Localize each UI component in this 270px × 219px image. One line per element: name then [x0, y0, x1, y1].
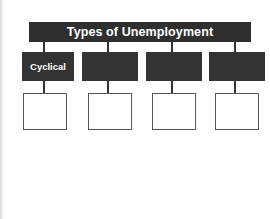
category-box-2 [82, 52, 138, 81]
connector-title-to-category-3 [171, 42, 173, 52]
answer-box-1 [23, 93, 67, 130]
category-box-4 [209, 52, 265, 81]
connector-category-2-to-box-2 [107, 81, 109, 93]
diagram-title: Types of Unemployment [29, 22, 251, 42]
answer-box-3 [152, 93, 196, 130]
answer-box-4 [215, 93, 259, 130]
answer-box-2 [88, 93, 132, 130]
category-box-3 [146, 52, 202, 81]
page-edge-shadow [0, 0, 3, 219]
connector-category-1-to-box-1 [43, 81, 45, 93]
connector-category-4-to-box-4 [234, 81, 236, 93]
connector-title-to-category-1 [43, 42, 45, 52]
connector-title-to-category-4 [234, 42, 236, 52]
connector-category-3-to-box-3 [171, 81, 173, 93]
category-box-cyclical: Cyclical [22, 52, 74, 81]
connector-title-to-category-2 [107, 42, 109, 52]
